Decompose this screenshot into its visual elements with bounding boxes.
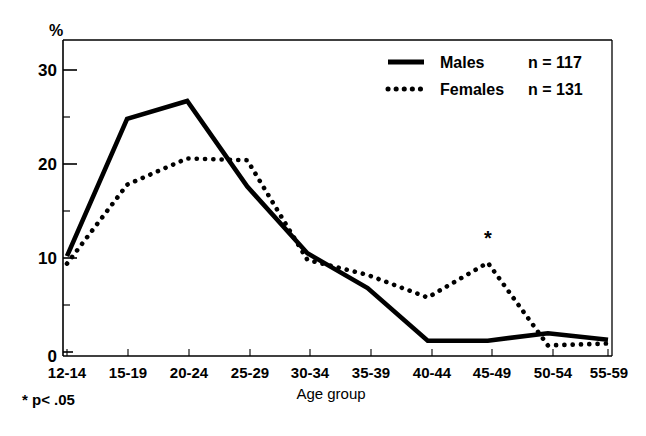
footnote-significance: * p< .05 <box>22 391 75 408</box>
legend-label-males: Males <box>440 54 485 71</box>
x-tick-label-3: 25-29 <box>231 364 269 381</box>
legend-n-females: n = 131 <box>528 81 583 98</box>
y-tick-label-30: 30 <box>38 61 57 80</box>
x-tick-label-6: 40-44 <box>413 364 452 381</box>
x-tick-label-2: 20-24 <box>170 364 209 381</box>
significance-asterisk: * <box>484 227 492 249</box>
chart-legend: Males Females n = 117 n = 131 <box>388 54 583 98</box>
y-axis-minor-ticks <box>63 117 70 305</box>
x-tick-label-0: 12-14 <box>48 364 87 381</box>
chart-svg: 30 20 10 0 % 12-14 15-19 20-24 25-29 30-… <box>0 0 646 436</box>
x-tick-label-7: 45-49 <box>473 364 511 381</box>
x-axis-ticks <box>67 349 608 356</box>
y-tick-label-20: 20 <box>38 155 57 174</box>
chart-figure: 30 20 10 0 % 12-14 15-19 20-24 25-29 30-… <box>0 0 646 436</box>
x-tick-label-9: 55-59 <box>590 364 628 381</box>
x-tick-labels: 12-14 15-19 20-24 25-29 30-34 35-39 40-4… <box>48 364 628 381</box>
series-line-males <box>67 101 608 341</box>
y-axis-unit-label: % <box>49 22 63 39</box>
legend-label-females: Females <box>440 81 504 98</box>
x-tick-label-4: 30-34 <box>291 364 330 381</box>
x-tick-label-8: 50-54 <box>534 364 573 381</box>
x-tick-label-5: 35-39 <box>352 364 390 381</box>
x-tick-label-1: 15-19 <box>109 364 147 381</box>
y-tick-label-10: 10 <box>38 249 57 268</box>
legend-n-males: n = 117 <box>528 54 582 71</box>
x-axis-title: Age group <box>296 385 365 402</box>
series-line-females <box>67 158 608 345</box>
